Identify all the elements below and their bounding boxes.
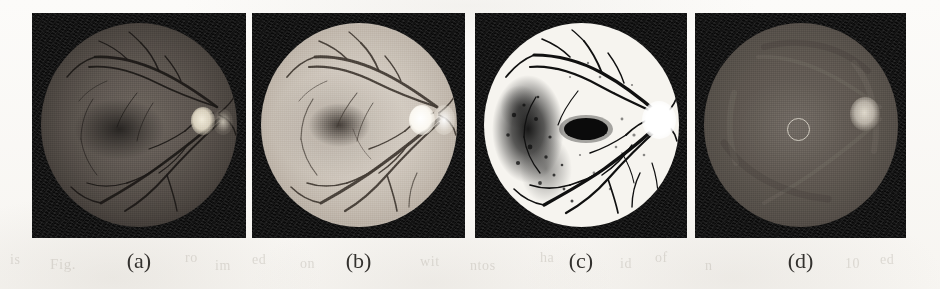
fundus-rim-a — [41, 23, 237, 227]
panel-a-caption: (a) — [32, 250, 246, 272]
panel-b — [252, 13, 465, 238]
panel-b-caption: (b) — [252, 250, 465, 272]
panel-c — [475, 13, 687, 238]
fundus-rim-c — [484, 23, 679, 227]
retinal-fundus-contrast-enhanced — [261, 23, 457, 227]
figure-container: isFig.roimedonwitntoshaidofn10ed — [0, 0, 940, 289]
fundus-rim-d — [704, 23, 898, 227]
retinal-fundus-original — [41, 23, 237, 227]
fundus-rim-b — [261, 23, 457, 227]
retinal-fundus-binarized-vessel-map — [484, 23, 679, 227]
panel-d — [695, 13, 906, 238]
bleed-through-text: is — [10, 252, 21, 268]
panel-c-caption: (c) — [475, 250, 687, 272]
retinal-fundus-smoothed-background — [704, 23, 898, 227]
panel-a — [32, 13, 246, 238]
panel-d-caption: (d) — [695, 250, 906, 272]
